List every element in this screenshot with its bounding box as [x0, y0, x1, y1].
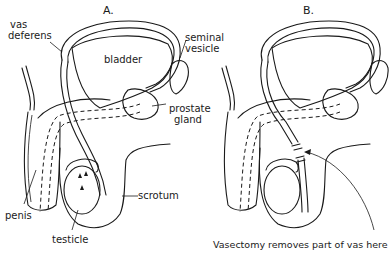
label-deferens: deferens [8, 31, 52, 41]
panel-a-title: A. [103, 4, 114, 17]
penis-a [24, 112, 60, 210]
label-vas: vas [10, 20, 27, 30]
label-gland: gland [174, 115, 202, 125]
label-prostate: prostate [169, 104, 211, 114]
label-vesicle: vesicle [185, 44, 220, 54]
label-penis: penis [5, 211, 32, 221]
label-vasectomy-caption: Vasectomy removes part of vas here [213, 240, 388, 250]
panel-b-title: B. [303, 4, 314, 17]
panel-b-drawing [222, 21, 388, 230]
scrotum-a [59, 144, 170, 228]
vasectomy-cut-marks [292, 144, 305, 162]
seminal-vesicle-a [170, 61, 188, 94]
label-scrotum: scrotum [138, 191, 179, 201]
bladder-a [72, 36, 172, 108]
label-bladder: bladder [104, 55, 142, 65]
label-seminal: seminal [185, 33, 224, 43]
bladder-b [272, 36, 372, 108]
label-testicle: testicle [52, 235, 88, 245]
